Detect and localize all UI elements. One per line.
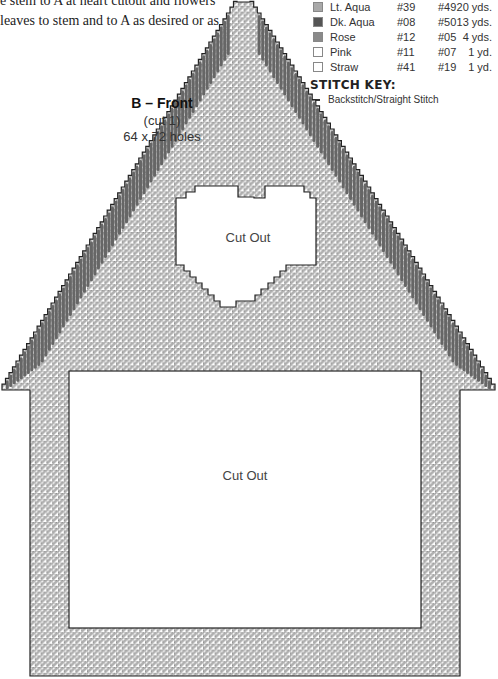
backstitch-mark [37, 328, 40, 366]
backstitch-mark [30, 340, 33, 372]
backstitch-mark [334, 137, 337, 177]
backstitch-mark [309, 96, 312, 136]
heart-cutout-label: Cut Out [210, 230, 286, 245]
backstitch-mark [118, 195, 121, 235]
backstitch-mark [356, 172, 359, 212]
backstitch-mark [72, 270, 75, 310]
backstitch-mark [58, 293, 61, 333]
backstitch-mark [440, 305, 443, 345]
backstitch-mark [459, 334, 462, 369]
backstitch-mark [426, 282, 429, 322]
backstitch-mark [455, 328, 458, 366]
backstitch-mark [206, 50, 209, 90]
backstitch-mark [20, 357, 23, 379]
backstitch-mark [283, 56, 286, 96]
backstitch-mark [433, 293, 436, 333]
backstitch-mark [349, 160, 352, 200]
backstitch-mark [316, 108, 319, 148]
backstitch-mark [331, 131, 334, 171]
backstitch-mark [462, 340, 465, 372]
backstitch-mark [93, 235, 96, 275]
backstitch-mark [51, 305, 54, 345]
backstitch-mark [371, 195, 374, 235]
backstitch-mark [13, 369, 16, 385]
backstitch-mark [132, 172, 135, 212]
backstitch-mark [269, 32, 272, 72]
backstitch-mark [9, 375, 12, 387]
backstitch-mark [408, 253, 411, 293]
backstitch-mark [305, 90, 308, 130]
backstitch-mark [484, 375, 487, 387]
backstitch-mark [477, 363, 480, 382]
backstitch-mark [44, 317, 47, 357]
backstitch-mark [69, 276, 72, 316]
backstitch-mark [389, 224, 392, 264]
backstitch-mark [114, 201, 117, 241]
backstitch-mark [327, 125, 330, 165]
backstitch-mark [320, 114, 323, 154]
backstitch-mark [261, 21, 264, 61]
backstitch-mark [448, 317, 451, 357]
backstitch-mark [323, 119, 326, 159]
backstitch-mark [302, 85, 305, 125]
backstitch-mark [481, 369, 484, 385]
backstitch-mark [139, 160, 142, 200]
backstitch-mark [23, 351, 26, 376]
backstitch-mark [265, 27, 268, 67]
backstitch-mark [444, 311, 447, 351]
house-front-piece [2, 1, 495, 676]
backstitch-mark [150, 143, 153, 183]
backstitch-mark [393, 230, 396, 270]
backstitch-mark [220, 27, 223, 67]
backstitch-mark [312, 102, 315, 142]
backstitch-mark [6, 380, 9, 389]
backstitch-mark [386, 218, 389, 258]
backstitch-mark [83, 253, 86, 293]
backstitch-mark [488, 380, 491, 389]
backstitch-mark [360, 177, 363, 217]
backstitch-mark [62, 288, 65, 328]
backstitch-mark [415, 264, 418, 304]
backstitch-mark [213, 38, 216, 78]
backstitch-mark [100, 224, 103, 264]
backstitch-mark [353, 166, 356, 206]
backstitch-mark [216, 32, 219, 72]
piece-cut-count: (cut 1) [112, 113, 212, 128]
backstitch-mark [430, 288, 433, 328]
backstitch-mark [227, 15, 230, 55]
backstitch-mark [146, 148, 149, 188]
backstitch-mark [298, 79, 301, 119]
backstitch-mark [16, 363, 19, 382]
backstitch-mark [86, 247, 89, 287]
backstitch-mark [209, 44, 212, 84]
backstitch-mark [55, 299, 58, 339]
backstitch-mark [451, 322, 454, 362]
backstitch-mark [419, 270, 422, 310]
backstitch-mark [397, 235, 400, 275]
backstitch-mark [342, 148, 345, 188]
backstitch-mark [411, 259, 414, 299]
plastic-canvas-chart [0, 0, 498, 679]
backstitch-mark [375, 201, 378, 241]
backstitch-mark [41, 322, 44, 362]
backstitch-mark [125, 183, 128, 223]
backstitch-mark [34, 334, 37, 369]
backstitch-mark [79, 259, 82, 299]
backstitch-mark [97, 230, 100, 270]
backstitch-mark [400, 241, 403, 281]
backstitch-mark [287, 61, 290, 101]
backstitch-mark [382, 212, 385, 252]
backstitch-mark [404, 247, 407, 287]
backstitch-mark [378, 206, 381, 246]
backstitch-mark [136, 166, 139, 206]
backstitch-mark [65, 282, 68, 322]
backstitch-mark [107, 212, 110, 252]
backstitch-mark [367, 189, 370, 229]
backstitch-mark [294, 73, 297, 113]
backstitch-mark [272, 38, 275, 78]
backstitch-mark [48, 311, 51, 351]
main-cutout [69, 371, 421, 628]
backstitch-mark [122, 189, 125, 229]
backstitch-mark [90, 241, 93, 281]
main-cutout-label: Cut Out [205, 468, 285, 483]
